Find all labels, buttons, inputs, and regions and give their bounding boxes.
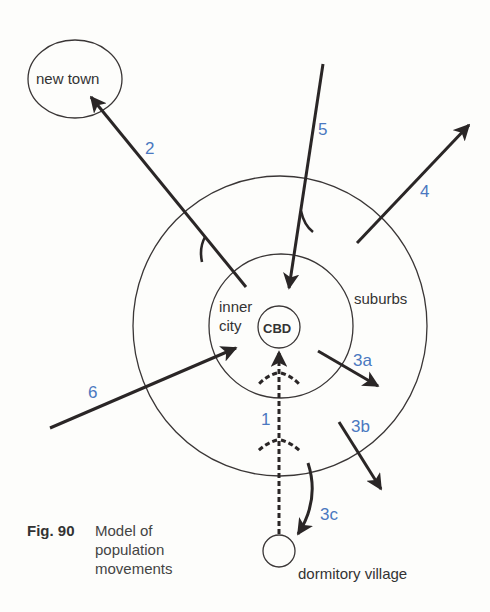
movement-label-6: 6 bbox=[88, 383, 97, 402]
movement-label-3c: 3c bbox=[320, 505, 338, 524]
figure-title-line: population bbox=[95, 540, 215, 559]
movement-label-2: 2 bbox=[145, 139, 154, 158]
cbd-label: CBD bbox=[263, 321, 291, 336]
figure-title-line: movements bbox=[95, 559, 215, 578]
arrow-1 bbox=[257, 352, 301, 534]
arrow-5 bbox=[289, 64, 323, 288]
figure-title: Model of population movements bbox=[95, 521, 215, 578]
inner-city-label-line2: city bbox=[219, 317, 242, 334]
dormitory-village-circle bbox=[263, 535, 295, 567]
movement-label-3a: 3a bbox=[353, 351, 372, 370]
inner-city-label-line1: inner bbox=[219, 298, 252, 315]
movement-label-1: 1 bbox=[261, 410, 270, 429]
movement-label-3b: 3b bbox=[351, 417, 370, 436]
population-movement-diagram: new town inner city CBD suburbs dormitor… bbox=[0, 0, 490, 612]
suburbs-label: suburbs bbox=[354, 290, 407, 307]
arrow-4 bbox=[357, 125, 469, 243]
movement-label-5: 5 bbox=[318, 120, 327, 139]
arrow-6 bbox=[50, 348, 236, 428]
movement-label-4: 4 bbox=[420, 182, 429, 201]
dormitory-village-label: dormitory village bbox=[298, 565, 407, 582]
arrow-2 bbox=[91, 97, 246, 287]
new-town-label: new town bbox=[36, 70, 99, 87]
figure-number: Fig. 90 bbox=[27, 522, 75, 539]
figure-title-line: Model of bbox=[95, 521, 215, 540]
figure-caption: Fig. 90 Model of population movements bbox=[27, 521, 75, 540]
